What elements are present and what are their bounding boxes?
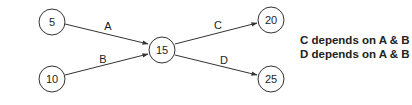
edge-label-d: D xyxy=(220,54,228,66)
edge-label-b: B xyxy=(99,53,106,65)
edge-label-c: C xyxy=(214,19,222,31)
node-25: 25 xyxy=(258,66,284,92)
node-5: 5 xyxy=(39,9,65,35)
note-d-dependency: D depends on A & B xyxy=(300,47,410,61)
edge-a: A xyxy=(65,20,148,44)
node-label-15: 15 xyxy=(156,44,168,56)
edge-label-a: A xyxy=(104,20,112,32)
node-label-20: 20 xyxy=(265,14,277,26)
edge-d: D xyxy=(175,54,257,75)
node-15: 15 xyxy=(149,37,175,63)
node-10: 10 xyxy=(39,66,65,92)
node-20: 20 xyxy=(258,7,284,33)
node-label-5: 5 xyxy=(49,16,55,28)
edge-b: B xyxy=(65,53,148,75)
note-c-dependency: C depends on A & B xyxy=(300,33,410,47)
dependency-notes: C depends on A & B D depends on A & B xyxy=(300,33,410,61)
edge-c: C xyxy=(175,19,257,44)
node-label-25: 25 xyxy=(265,73,277,85)
node-label-10: 10 xyxy=(46,73,58,85)
